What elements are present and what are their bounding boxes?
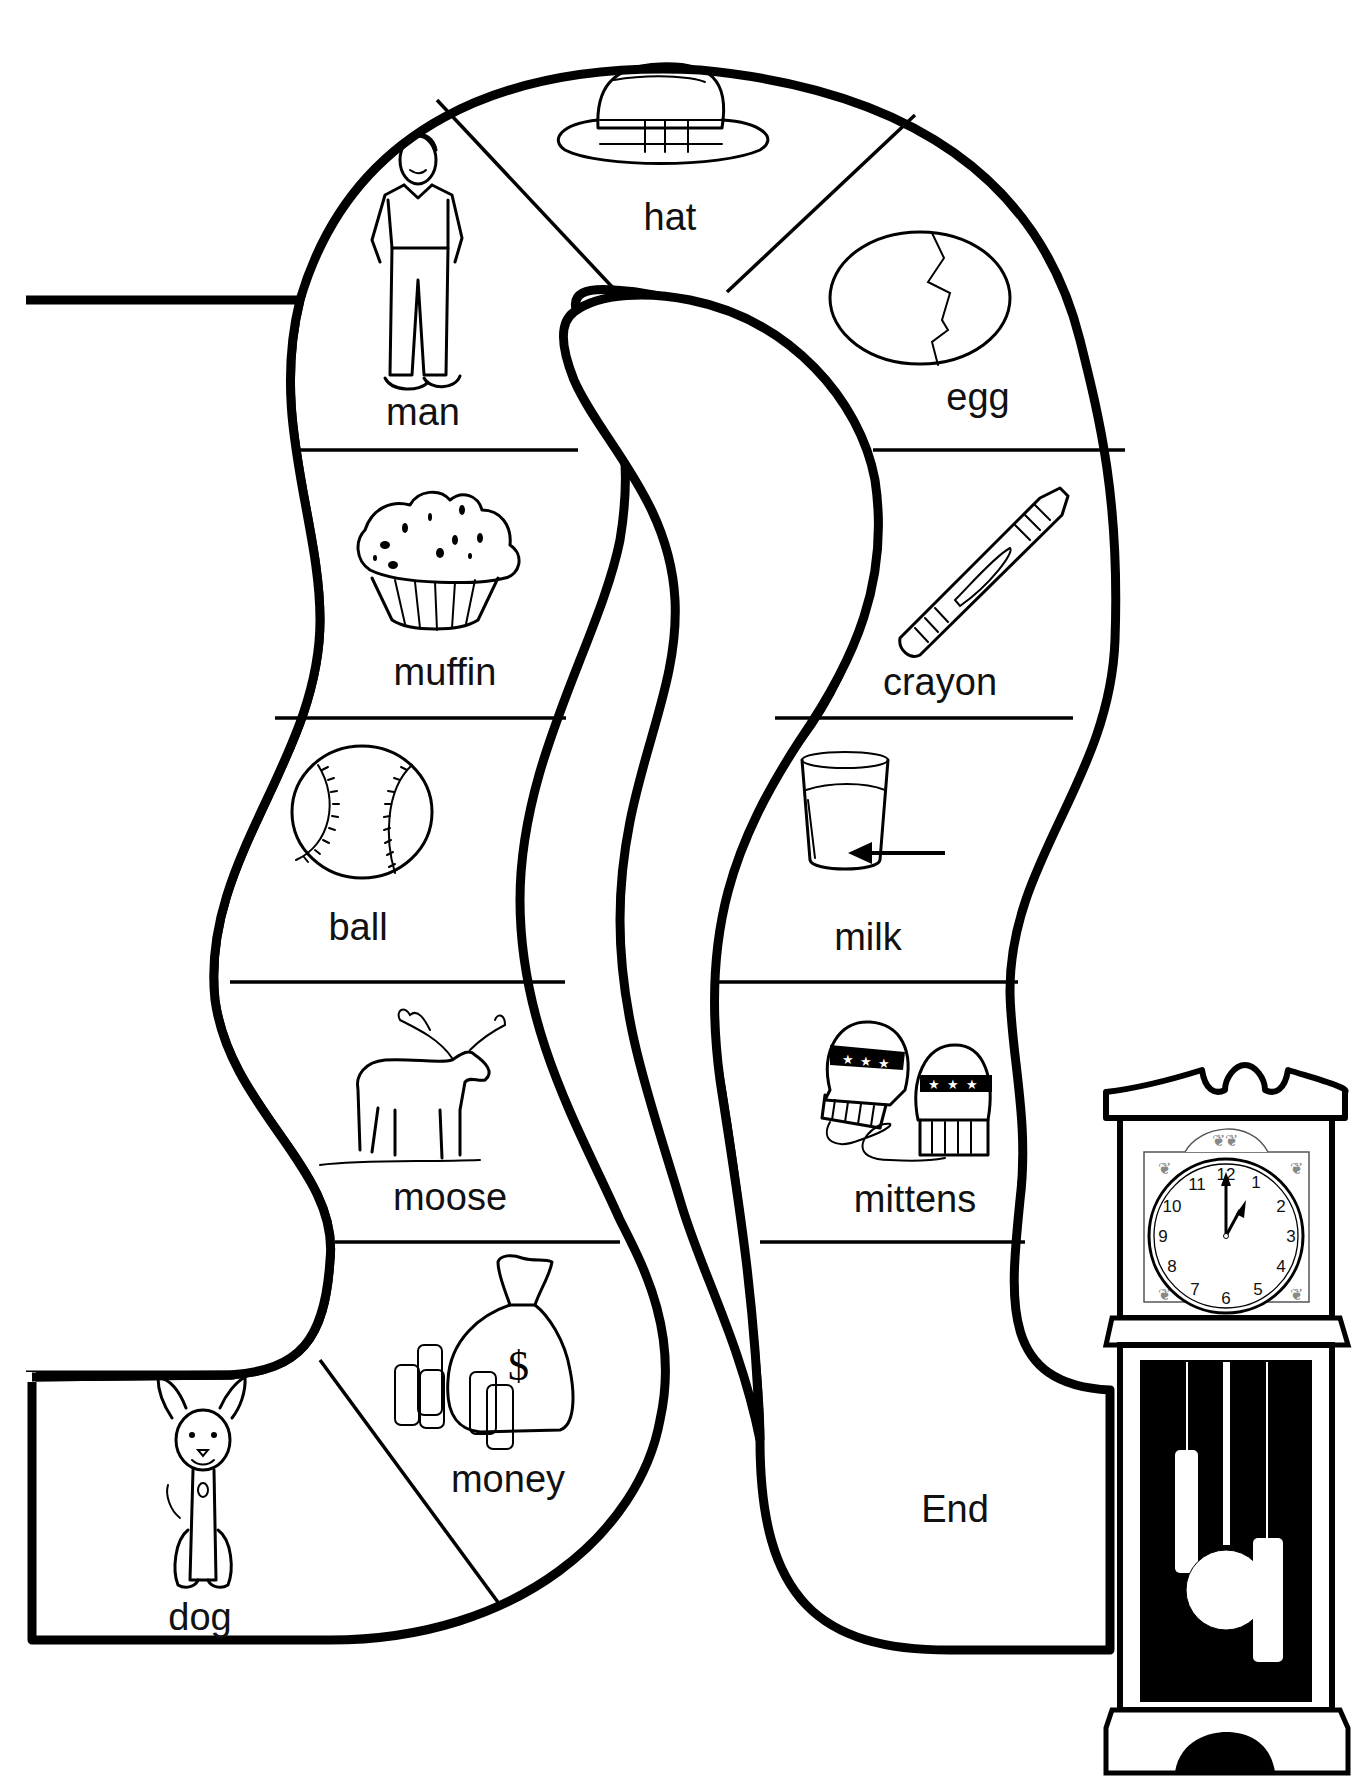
space-label-ball: ball — [328, 906, 387, 948]
svg-text:❦: ❦ — [1290, 1286, 1303, 1303]
game-board: hat man egg muffin crayon — [0, 0, 1358, 1790]
svg-text:$: $ — [508, 1343, 529, 1389]
mask — [0, 290, 26, 1380]
clock-number-7: 7 — [1190, 1280, 1199, 1299]
svg-text:★: ★ — [928, 1077, 940, 1092]
clock-number-10: 10 — [1163, 1197, 1182, 1216]
space-label-moose: moose — [393, 1176, 507, 1218]
space-label-crayon: crayon — [883, 661, 997, 703]
space-label-muffin: muffin — [394, 651, 497, 693]
clock-number-6: 6 — [1221, 1289, 1230, 1308]
space-label-egg: egg — [946, 376, 1009, 418]
clock-number-3: 3 — [1286, 1227, 1295, 1246]
board-edge — [32, 1375, 235, 1377]
svg-text:★: ★ — [878, 1056, 890, 1071]
clock-number-8: 8 — [1167, 1257, 1176, 1276]
grandfather-clock-icon: ❦❦ ❦❦ ❦❦ 12 1 2 3 4 5 6 7 8 9 10 11 — [1106, 1065, 1348, 1773]
clock-number-9: 9 — [1158, 1227, 1167, 1246]
space-label-money: money — [451, 1458, 565, 1500]
clock-number-1: 1 — [1251, 1173, 1260, 1192]
space-label-milk: milk — [834, 916, 903, 958]
space-label-end: End — [921, 1488, 989, 1530]
svg-text:❦: ❦ — [1158, 1160, 1171, 1177]
svg-text:★: ★ — [860, 1054, 872, 1069]
clock-number-11: 11 — [1188, 1175, 1206, 1194]
svg-text:❦❦: ❦❦ — [1212, 1132, 1238, 1149]
mask — [0, 1372, 36, 1382]
clock-number-5: 5 — [1253, 1280, 1262, 1299]
space-label-mittens: mittens — [854, 1178, 976, 1220]
space-label-hat: hat — [644, 196, 697, 238]
space-label-man: man — [386, 391, 460, 433]
clock-number-2: 2 — [1276, 1197, 1285, 1216]
svg-text:★: ★ — [966, 1077, 978, 1092]
clock-number-4: 4 — [1276, 1257, 1285, 1276]
space-label-dog: dog — [168, 1596, 231, 1638]
svg-text:★: ★ — [842, 1052, 854, 1067]
svg-text:★: ★ — [947, 1077, 959, 1092]
svg-text:❦: ❦ — [1290, 1160, 1303, 1177]
